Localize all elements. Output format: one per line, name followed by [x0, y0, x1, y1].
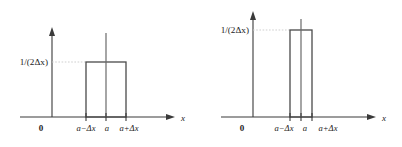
tick-label-right-plus-right: a+Δx	[319, 123, 338, 133]
plot-left: 1/(2Δx) 0 a−Δx a a+Δx x	[0, 0, 201, 147]
height-label-left: 1/(2Δx)	[20, 57, 48, 67]
origin-label-left: 0	[39, 123, 44, 133]
chart-panel-right: 1/(2Δx) 0 a−Δx a a+Δx x	[201, 0, 402, 147]
y-axis-arrow-left	[49, 27, 55, 36]
tick-label-center-left: a	[105, 123, 109, 133]
chart-panel-left: 1/(2Δx) 0 a−Δx a a+Δx x	[0, 0, 201, 147]
x-axis-arrow-left	[166, 114, 175, 120]
plot-right: 1/(2Δx) 0 a−Δx a a+Δx x	[201, 0, 402, 147]
origin-label-right: 0	[240, 123, 245, 133]
x-axis-arrow-right	[367, 114, 376, 120]
tick-label-right-plus-left: a+Δx	[120, 123, 139, 133]
figure-container: 1/(2Δx) 0 a−Δx a a+Δx x	[0, 0, 402, 147]
tick-label-left-minus-left: a−Δx	[77, 123, 96, 133]
x-axis-label-left: x	[180, 113, 185, 123]
tick-label-center-right: a	[303, 123, 307, 133]
x-axis-label-right: x	[381, 113, 386, 123]
height-label-right: 1/(2Δx)	[221, 25, 249, 35]
tick-label-left-minus-right: a−Δx	[275, 123, 294, 133]
y-axis-arrow-right	[250, 11, 256, 20]
